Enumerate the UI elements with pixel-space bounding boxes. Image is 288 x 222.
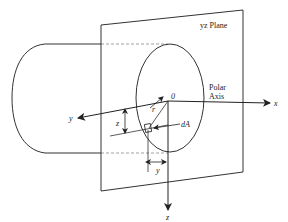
dA-pointer bbox=[154, 124, 180, 128]
plane-label: yz Plane bbox=[200, 21, 228, 30]
y-axis-label: y bbox=[68, 114, 73, 123]
cylinder-end-curve bbox=[12, 44, 101, 153]
cylinder-polar-diagram: yz Plane Polar Axis 0 x y z r dA z y bbox=[0, 0, 288, 222]
cylinder bbox=[12, 44, 168, 153]
origin-label: 0 bbox=[171, 92, 175, 101]
area-element-label: dA bbox=[181, 120, 190, 129]
z-dimension-label: z bbox=[115, 119, 120, 128]
x-axis bbox=[168, 101, 270, 103]
cross-section-ellipse bbox=[136, 44, 204, 152]
polar-axis-label-2: Axis bbox=[209, 92, 224, 101]
x-axis-label: x bbox=[273, 99, 278, 108]
z-axis-label: z bbox=[165, 213, 170, 222]
radius-label: r bbox=[152, 105, 156, 114]
y-dimension-label: y bbox=[155, 166, 160, 175]
polar-axis-label-1: Polar bbox=[209, 83, 226, 92]
